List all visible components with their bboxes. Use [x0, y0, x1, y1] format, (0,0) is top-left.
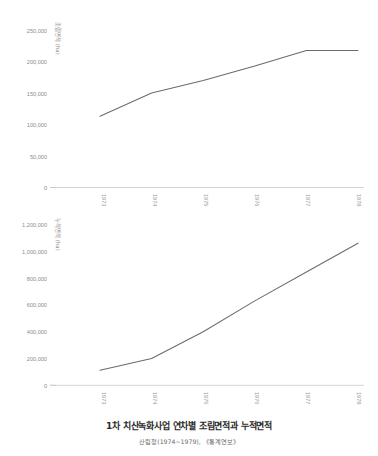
chart-cumulative-afforestation-area: 1,200,000 1,000,000 800,000 600,000 400,…	[0, 212, 378, 412]
figure-title: 1차 치산녹화사업 연차별 조림면적과 누적면적	[0, 419, 378, 432]
chart1-y-axis: 250,000 200,000 150,000 100,000 50,000 0	[27, 28, 47, 191]
chart1-ytick-label: 100,000	[27, 122, 47, 128]
chart2-ytick-label: 600,000	[27, 302, 47, 308]
chart-annual-afforestation-area: 250,000 200,000 150,000 100,000 50,000 0…	[0, 4, 378, 216]
chart1-ytick-label: 200,000	[27, 59, 47, 65]
chart1-y-axis-title-text: 조림면적 (ha)	[54, 22, 62, 55]
chart2-ytick-label: 0	[44, 383, 47, 389]
chart1-x-axis: 1973 1974 1975 1976 1977 1978	[101, 194, 362, 206]
chart1-svg: 250,000 200,000 150,000 100,000 50,000 0…	[0, 4, 378, 216]
chart1-ytick-label: 250,000	[27, 28, 47, 34]
chart1-ytick-label: 150,000	[27, 91, 47, 97]
chart1-ytick-label: 0	[44, 185, 47, 191]
chart1-dataline	[100, 50, 358, 116]
chart2-x-axis: 1973 1974 1975 1976 1977 1978	[101, 392, 362, 404]
chart1-xtick-label: 1973	[101, 194, 107, 206]
chart2-y-axis-title: 누적면적 (ha)	[54, 218, 62, 251]
chart2-y-axis: 1,200,000 1,000,000 800,000 600,000 400,…	[22, 222, 47, 389]
chart2-ytick-label: 800,000	[27, 276, 47, 282]
chart1-xtick-label: 1974	[152, 194, 158, 206]
chart1-xtick-label: 1977	[305, 194, 311, 206]
chart2-svg: 1,200,000 1,000,000 800,000 600,000 400,…	[0, 212, 378, 412]
chart1-xtick-label: 1976	[254, 194, 260, 206]
figure-source: 산림청(1974~1979), 《통계연보》	[0, 437, 378, 446]
chart2-dataline	[100, 243, 358, 370]
chart2-xtick-label: 1975	[203, 392, 209, 404]
chart2-ytick-label: 200,000	[27, 356, 47, 362]
chart2-xtick-label: 1978	[356, 392, 362, 404]
chart1-xtick-label: 1975	[203, 194, 209, 206]
chart1-ytick-label: 50,000	[30, 154, 47, 160]
chart2-xtick-label: 1976	[254, 392, 260, 404]
chart2-ytick-label: 1,000,000	[22, 249, 47, 255]
chart1-y-axis-title: 조림면적 (ha)	[54, 22, 62, 55]
chart2-xtick-label: 1974	[152, 392, 158, 404]
chart2-xtick-label: 1977	[305, 392, 311, 404]
chart2-ytick-label: 1,200,000	[22, 222, 47, 228]
chart2-y-axis-title-text: 누적면적 (ha)	[54, 218, 62, 251]
chart2-ytick-label: 400,000	[27, 329, 47, 335]
chart2-xtick-label: 1973	[101, 392, 107, 404]
chart1-xtick-label: 1978	[356, 194, 362, 206]
